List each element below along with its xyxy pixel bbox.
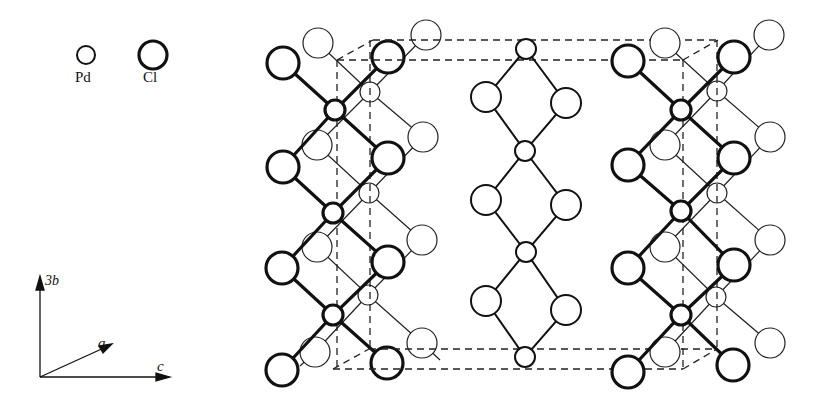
legend-pd-label: Pd <box>75 69 91 86</box>
axis-label-3b: 3b <box>45 273 59 289</box>
legend <box>77 41 167 69</box>
legend-cl-label: Cl <box>143 69 157 86</box>
axis-label-a: a <box>98 335 106 352</box>
axis-triad <box>36 276 170 381</box>
right-chain-group <box>612 20 785 388</box>
axis-label-c: c <box>157 358 164 375</box>
legend-pd-atom-icon <box>77 46 95 64</box>
crystal-structure-diagram: .bold { stroke: #111; stroke-width: 3.2;… <box>0 0 819 414</box>
middle-chain-group <box>471 39 581 367</box>
legend-cl-atom-icon <box>139 41 167 69</box>
left-chain-group <box>266 20 441 386</box>
